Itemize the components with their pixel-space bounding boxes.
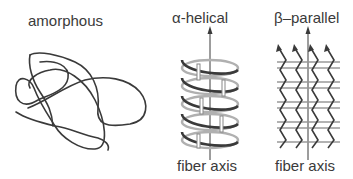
alpha-helix-diagram — [182, 26, 238, 160]
strand-arrow-icons — [276, 44, 330, 52]
amorphous-coil — [16, 53, 146, 150]
beta-parallel-diagram — [276, 26, 340, 160]
diagram-canvas — [0, 0, 353, 179]
fiber-axis-arrow-icon — [208, 26, 213, 34]
fiber-axis-arrow-icon — [306, 26, 311, 34]
